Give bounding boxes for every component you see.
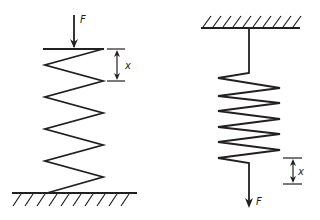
- right-spring-coil: [218, 28, 280, 204]
- left-spring-assembly: F: [12, 14, 137, 206]
- ceiling-hatching: [203, 16, 301, 27]
- ground-hatching: [13, 194, 129, 206]
- left-displacement-dimension: [107, 49, 125, 81]
- left-spring-coil: [45, 49, 103, 193]
- right-force-label: F: [256, 196, 262, 207]
- ground-support: [12, 193, 137, 206]
- right-displacement-label: x: [297, 166, 304, 177]
- ceiling-support: [201, 16, 301, 28]
- left-force-arrow: [70, 15, 78, 48]
- right-spring-assembly: F x: [201, 16, 304, 208]
- left-force-label: F: [80, 14, 86, 25]
- left-displacement-label: x: [124, 60, 131, 71]
- spring-diagram: F: [0, 0, 320, 220]
